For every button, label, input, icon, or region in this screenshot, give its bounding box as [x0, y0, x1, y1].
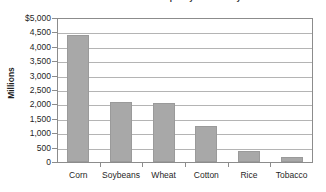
x-axis-tick-label: Tobacco	[270, 170, 313, 180]
x-axis-tick	[270, 163, 271, 167]
y-axis-tick-label: 500	[0, 144, 51, 153]
chart-title: U.S. Farm Cash Receipts by Commodity	[0, 0, 326, 2]
x-axis-tick-label: Wheat	[142, 170, 185, 180]
bar	[67, 35, 89, 162]
y-axis-tick-label: $5,000	[0, 14, 51, 23]
x-axis-tick-label: Rice	[228, 170, 271, 180]
y-axis-tick-label: 3,500	[0, 57, 51, 66]
y-axis-tick-label: 2,500	[0, 86, 51, 95]
y-axis-tick-label: 2,000	[0, 100, 51, 109]
x-axis-tick-label: Soybeans	[100, 170, 143, 180]
bar	[238, 151, 260, 162]
x-axis-tick	[185, 163, 186, 167]
y-axis-tick-label: 0	[0, 158, 51, 167]
y-axis-tick-label: 4,000	[0, 43, 51, 52]
y-axis-tick-label: 1,000	[0, 129, 51, 138]
bar-chart: U.S. Farm Cash Receipts by Commodity Mil…	[0, 0, 326, 192]
x-axis-tick-label: Corn	[57, 170, 100, 180]
y-axis-tick-label: 1,500	[0, 115, 51, 124]
bar	[281, 157, 303, 162]
x-axis-tick	[142, 163, 143, 167]
x-axis-tick-labels: CornSoybeansWheatCottonRiceTobacco	[57, 170, 313, 184]
y-axis-tick-label: 4,500	[0, 28, 51, 37]
bar-series	[57, 18, 313, 163]
y-axis-tick-labels: $5,0004,5004,0003,5003,0002,5002,0001,50…	[0, 18, 51, 163]
y-axis-tick-label: 3,000	[0, 72, 51, 81]
bar	[153, 103, 175, 162]
x-axis-tick-label: Cotton	[185, 170, 228, 180]
x-axis-tick	[228, 163, 229, 167]
bar	[110, 102, 132, 162]
bar	[195, 126, 217, 162]
x-axis-tick	[100, 163, 101, 167]
